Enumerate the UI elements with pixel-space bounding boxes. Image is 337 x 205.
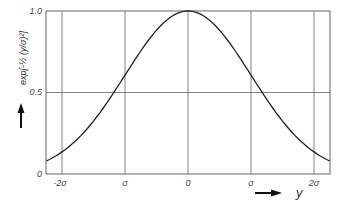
y-tick-1: 1.0 xyxy=(29,6,42,16)
x-tick-1sigma: σ xyxy=(248,178,254,188)
x-tick-0: 0 xyxy=(185,178,190,188)
x-tick-minus1sigma: σ xyxy=(122,178,128,188)
y-tick-05: 0.5 xyxy=(29,87,43,97)
y-axis-label: exp[-½ (y/σ)²] xyxy=(18,31,28,85)
y-tick-0: 0 xyxy=(37,169,42,179)
x-tick-minus2sigma: -2σ xyxy=(53,178,67,188)
gaussian-chart: 1.0 0.5 0 -2σ σ 0 σ 2σ exp[-½ (y/σ)²] y xyxy=(0,0,337,205)
arrow-right-icon xyxy=(255,190,282,197)
arrow-up-icon xyxy=(18,103,25,128)
x-tick-2sigma: 2σ xyxy=(308,178,320,188)
x-axis-label: y xyxy=(295,185,304,200)
